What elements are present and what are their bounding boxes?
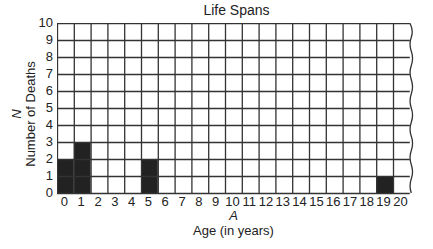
y-tick-label: 10: [33, 15, 53, 30]
x-tick-label: 20: [390, 194, 410, 209]
y-tick-label: 7: [33, 66, 53, 81]
torn-edge: [410, 23, 413, 193]
y-axis-variable: N: [10, 44, 24, 184]
x-axis-variable: A: [57, 208, 410, 223]
bar: [376, 176, 393, 193]
plot-area: [57, 23, 417, 195]
bar: [74, 142, 91, 193]
y-tick-label: 1: [33, 168, 53, 183]
y-tick-label: 5: [33, 100, 53, 115]
y-tick-label: 2: [33, 151, 53, 166]
y-tick-label: 4: [33, 117, 53, 132]
y-tick-label: 9: [33, 32, 53, 47]
y-tick-label: 8: [33, 49, 53, 64]
y-tick-label: 0: [33, 185, 53, 200]
y-tick-label: 6: [33, 83, 53, 98]
y-tick-label: 3: [33, 134, 53, 149]
x-axis-label: Age (in years): [57, 223, 410, 238]
x-axis-title: A Age (in years): [57, 208, 410, 238]
chart-title: Life Spans: [0, 2, 433, 18]
